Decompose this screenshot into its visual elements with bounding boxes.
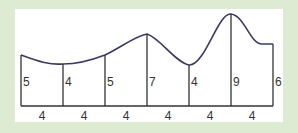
height-label: 5 xyxy=(107,75,114,89)
height-label: 5 xyxy=(23,75,30,89)
width-label: 4 xyxy=(81,109,88,123)
width-label: 4 xyxy=(39,109,46,123)
height-label: 4 xyxy=(191,75,198,89)
strip-diagram: 5 4 5 7 4 9 6 4 4 4 4 4 4 xyxy=(0,0,298,133)
height-label: 4 xyxy=(65,75,72,89)
width-label: 4 xyxy=(123,109,130,123)
width-labels: 4 4 4 4 4 4 xyxy=(39,109,256,123)
height-label: 7 xyxy=(149,75,156,89)
width-label: 4 xyxy=(165,109,172,123)
width-label: 4 xyxy=(249,109,256,123)
height-labels: 5 4 5 7 4 9 6 xyxy=(23,75,282,89)
height-label: 9 xyxy=(233,75,240,89)
height-label: 6 xyxy=(275,75,282,89)
strip-lines xyxy=(21,14,273,106)
width-label: 4 xyxy=(207,109,214,123)
